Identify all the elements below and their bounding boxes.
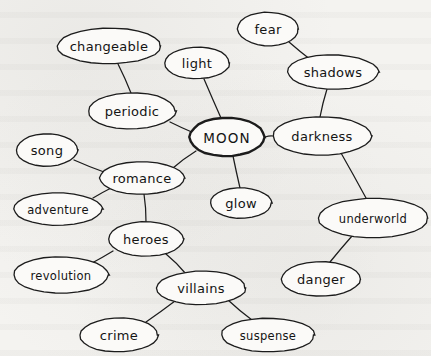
node-label-changeable: changeable (70, 39, 149, 54)
edge-song-to-romance (74, 160, 104, 172)
edge-changeable-to-periodic (118, 64, 131, 93)
node-glow[interactable]: glow (211, 188, 273, 218)
edge-darkness-to-underworld (341, 153, 366, 198)
edge-moon-to-darkness (265, 136, 273, 137)
node-label-light: light (182, 56, 212, 71)
node-layer: MOONchangeablelightfearshadowsperiodicda… (14, 12, 428, 351)
node-label-revolution: revolution (31, 269, 92, 283)
node-label-adventure: adventure (27, 203, 89, 217)
node-label-villains: villains (177, 281, 225, 296)
edge-heroes-to-villains (166, 254, 186, 274)
mindmap-canvas: MOONchangeablelightfearshadowsperiodicda… (0, 0, 431, 356)
node-darkness[interactable]: darkness (273, 117, 372, 155)
node-label-romance: romance (112, 171, 171, 186)
node-villains[interactable]: villains (156, 271, 245, 304)
edge-villains-to-suspense (228, 300, 252, 320)
node-label-fear: fear (254, 22, 281, 37)
edge-villains-to-crime (146, 301, 175, 322)
node-fear[interactable]: fear (237, 12, 298, 46)
node-label-shadows: shadows (304, 65, 363, 80)
node-label-danger: danger (297, 272, 345, 287)
node-label-darkness: darkness (291, 129, 352, 144)
node-revolution[interactable]: revolution (14, 257, 109, 293)
node-changeable[interactable]: changeable (57, 28, 160, 63)
node-label-underworld: underworld (339, 212, 407, 226)
node-adventure[interactable]: adventure (14, 193, 103, 225)
node-suspense[interactable]: suspense (222, 318, 315, 351)
edge-shadows-to-darkness (320, 89, 327, 117)
edge-romance-to-heroes (144, 194, 146, 222)
edge-moon-to-romance (173, 151, 196, 168)
node-label-suspense: suspense (240, 329, 296, 343)
node-label-song: song (31, 143, 63, 158)
node-label-periodic: periodic (105, 104, 160, 119)
edge-moon-to-glow (233, 156, 240, 188)
node-danger[interactable]: danger (281, 262, 360, 296)
node-label-moon: MOON (203, 130, 250, 146)
edge-heroes-to-revolution (92, 251, 113, 263)
node-periodic[interactable]: periodic (89, 93, 177, 129)
node-song[interactable]: song (16, 134, 78, 166)
node-romance[interactable]: romance (99, 162, 184, 194)
node-label-heroes: heroes (123, 232, 169, 247)
node-label-crime: crime (100, 328, 138, 343)
node-shadows[interactable]: shadows (288, 55, 380, 89)
node-light[interactable]: light (165, 47, 230, 79)
node-heroes[interactable]: heroes (109, 222, 184, 256)
node-label-glow: glow (225, 196, 257, 211)
node-moon[interactable]: MOON (189, 118, 264, 156)
node-underworld[interactable]: underworld (318, 198, 427, 237)
edge-underworld-to-danger (330, 236, 352, 262)
node-crime[interactable]: crime (80, 318, 159, 352)
mindmap-diagram: MOONchangeablelightfearshadowsperiodicda… (0, 0, 431, 356)
edge-light-to-moon (204, 79, 221, 118)
